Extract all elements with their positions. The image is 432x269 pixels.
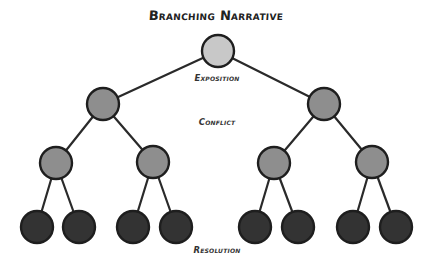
branch-node <box>258 147 290 179</box>
branch-node <box>40 147 72 179</box>
branch-node <box>308 88 340 120</box>
leaf-node <box>63 211 95 243</box>
leaf-node <box>239 211 271 243</box>
diagram-title: Branching Narrative <box>0 8 432 23</box>
branch-node <box>137 146 169 178</box>
leaf-node <box>21 211 53 243</box>
leaf-node <box>160 211 192 243</box>
stage-label-exposition: Exposition <box>147 73 287 83</box>
tree-graph <box>0 0 432 269</box>
root-node <box>202 35 234 67</box>
branching-narrative-diagram: Branching Narrative Exposition Conflict … <box>0 0 432 269</box>
stage-label-resolution: Resolution <box>147 245 287 255</box>
branch-node <box>356 146 388 178</box>
leaf-node <box>282 211 314 243</box>
leaf-node <box>337 211 369 243</box>
stage-label-conflict: Conflict <box>147 117 287 127</box>
leaf-node <box>380 211 412 243</box>
leaf-node <box>117 211 149 243</box>
branch-node <box>87 88 119 120</box>
